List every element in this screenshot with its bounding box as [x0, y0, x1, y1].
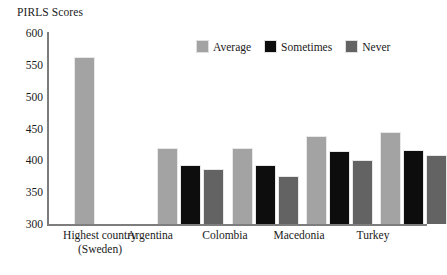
chart-legend: AverageSometimesNever: [196, 40, 390, 53]
x-category-label: Turkey: [303, 228, 443, 242]
bar-average: [74, 57, 95, 224]
bar-sometimes: [329, 151, 350, 224]
x-axis-line: [47, 224, 427, 226]
bar-sometimes: [180, 165, 201, 224]
legend-item-average: Average: [196, 40, 251, 53]
bar-average: [380, 132, 401, 224]
y-tick-label: 450: [26, 123, 43, 135]
legend-item-sometimes: Sometimes: [264, 40, 332, 53]
y-tick-label: 550: [26, 59, 43, 71]
legend-swatch-icon: [196, 40, 209, 53]
bar-group: [380, 33, 447, 224]
bar-never: [278, 176, 299, 224]
bar-group: [157, 33, 224, 224]
legend-label: Never: [362, 41, 390, 53]
bar-average: [157, 148, 178, 224]
y-tick-label: 500: [26, 91, 43, 103]
bar-never: [352, 160, 373, 224]
legend-label: Sometimes: [281, 41, 332, 53]
bar-sometimes: [403, 150, 424, 224]
bar-sometimes: [255, 165, 276, 224]
bar-average: [306, 136, 327, 224]
legend-swatch-icon: [264, 40, 277, 53]
bar-never: [203, 169, 224, 224]
y-tick-label: 400: [26, 154, 43, 166]
y-tick-label: 600: [26, 27, 43, 39]
bar-group: [306, 33, 373, 224]
x-axis-category-labels: Highest country (Sweden)ArgentinaColombi…: [0, 228, 433, 274]
legend-swatch-icon: [345, 40, 358, 53]
legend-label: Average: [213, 41, 251, 53]
bar-group: [232, 33, 299, 224]
bars-layer: [47, 33, 427, 224]
bar-group: [74, 33, 95, 224]
bar-average: [232, 148, 253, 224]
legend-item-never: Never: [345, 40, 390, 53]
y-tick-label: 350: [26, 186, 43, 198]
bar-never: [426, 155, 447, 224]
